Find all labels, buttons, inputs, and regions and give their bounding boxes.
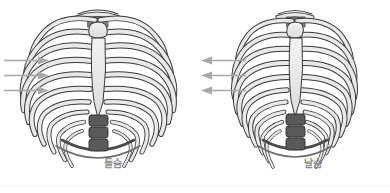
label-inhale: 들숨 — [83, 158, 143, 170]
inhale-arrow-3 — [4, 86, 50, 95]
exhale-arrow-1 — [200, 56, 246, 65]
label-exhale: 날숨 — [283, 158, 343, 170]
arrow-group-inhale — [4, 56, 64, 108]
exhale-arrow-3 — [200, 86, 246, 95]
breathing-ribcage-diagram: 들숨 날숨 — [0, 0, 390, 193]
inhale-arrow-2 — [4, 71, 50, 80]
vertebrae-exhale — [286, 114, 305, 150]
inhale-arrow-1 — [4, 56, 50, 65]
bottom-divider — [0, 186, 390, 187]
exhale-arrow-2 — [200, 71, 246, 80]
vertebrae-inhale — [89, 115, 108, 151]
arrow-group-exhale — [200, 56, 260, 108]
